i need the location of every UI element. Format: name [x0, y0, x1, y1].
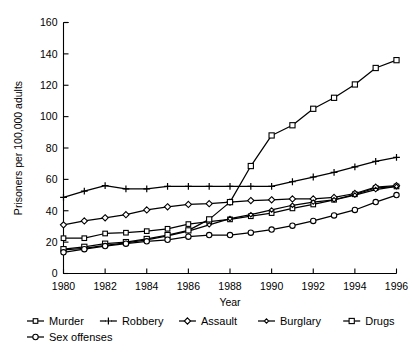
marker-circle [248, 230, 253, 235]
x-axis-label: Year [219, 296, 241, 308]
marker-plus [393, 154, 400, 161]
marker-square [311, 106, 316, 111]
marker-plus [227, 183, 234, 190]
x-tick-label-1994: 1994 [343, 280, 367, 292]
x-tick-label-1984: 1984 [135, 280, 159, 292]
legend-item-sex-offenses[interactable]: Sex offenses [27, 331, 113, 343]
marker-plus [331, 169, 338, 176]
marker-circle [269, 227, 274, 232]
legend-label: Murder [49, 315, 84, 327]
x-tick-label-1992: 1992 [302, 280, 326, 292]
y-axis-label: Prisoners per 100,000 adults [12, 81, 24, 215]
marker-square [186, 228, 191, 233]
marker-diamond [269, 197, 275, 203]
marker-plus [105, 318, 112, 325]
marker-plus [247, 183, 254, 190]
marker-circle [144, 239, 149, 244]
marker-circle [290, 223, 295, 228]
marker-circle [352, 207, 357, 212]
marker-square [269, 133, 274, 138]
marker-circle [206, 232, 211, 237]
x-tick-label-1982: 1982 [93, 280, 117, 292]
marker-small-diamond [264, 319, 268, 323]
legend-item-drugs[interactable]: Drugs [343, 315, 395, 327]
marker-diamond [289, 196, 295, 202]
legend-item-assault[interactable]: Assault [179, 315, 237, 327]
marker-plus [60, 194, 67, 201]
legend-item-burglary[interactable]: Burglary [258, 315, 321, 327]
legend-label: Burglary [280, 315, 321, 327]
marker-plus [206, 183, 213, 190]
legend-label: Sex offenses [49, 331, 113, 343]
series-line-robbery [64, 157, 397, 197]
marker-circle [331, 213, 336, 218]
x-tick-label-1980: 1980 [52, 280, 76, 292]
x-tick-label-1986: 1986 [177, 280, 201, 292]
marker-diamond [164, 204, 170, 210]
marker-square [144, 229, 149, 234]
marker-plus [143, 185, 150, 192]
marker-circle [123, 241, 128, 246]
y-tick-label-60: 60 [46, 173, 58, 185]
marker-square [33, 319, 38, 324]
y-tick-label-40: 40 [46, 205, 58, 217]
marker-plus [351, 163, 358, 170]
marker-plus [102, 182, 109, 189]
y-tick-label-80: 80 [46, 142, 58, 154]
y-tick-label-100: 100 [40, 110, 58, 122]
marker-circle [33, 334, 38, 339]
marker-diamond [248, 197, 254, 203]
marker-plus [123, 185, 130, 192]
marker-plus [310, 174, 317, 181]
marker-square [248, 163, 253, 168]
marker-diamond [184, 318, 190, 324]
legend-label: Assault [201, 315, 237, 327]
marker-square [207, 217, 212, 222]
marker-square [373, 65, 378, 70]
x-tick-label-1988: 1988 [218, 280, 242, 292]
marker-plus [372, 158, 379, 165]
marker-plus [185, 183, 192, 190]
marker-plus [289, 178, 296, 185]
marker-square [290, 123, 295, 128]
prisoners-per-100k-line-chart: 0204060801001201401601980198219841986198… [0, 0, 413, 360]
marker-diamond [81, 218, 87, 224]
marker-square [352, 82, 357, 87]
marker-square [394, 58, 399, 63]
series-drugs [61, 58, 399, 252]
marker-diamond [102, 215, 108, 221]
legend-label: Drugs [365, 315, 395, 327]
legend-item-robbery[interactable]: Robbery [100, 315, 164, 327]
y-tick-label-120: 120 [40, 79, 58, 91]
legend-item-murder[interactable]: Murder [27, 315, 84, 327]
marker-plus [81, 188, 88, 195]
marker-circle [394, 192, 399, 197]
marker-circle [311, 218, 316, 223]
marker-square [165, 226, 170, 231]
x-tick-label-1990: 1990 [260, 280, 284, 292]
line-chart-figure: 0204060801001201401601980198219841986198… [0, 0, 413, 360]
marker-plus [268, 183, 275, 190]
y-tick-label-20: 20 [46, 236, 58, 248]
y-tick-label-160: 160 [40, 16, 58, 28]
marker-plus [164, 183, 171, 190]
marker-square [331, 95, 336, 100]
marker-circle [373, 199, 378, 204]
series-robbery [60, 154, 400, 201]
marker-diamond [123, 212, 129, 218]
marker-square [124, 230, 129, 235]
marker-circle [165, 237, 170, 242]
y-tick-label-0: 0 [52, 267, 58, 279]
x-tick-label-1996: 1996 [385, 280, 409, 292]
y-tick-label-140: 140 [40, 48, 58, 60]
marker-square [186, 222, 191, 227]
marker-circle [82, 246, 87, 251]
marker-diamond [60, 222, 66, 228]
marker-circle [227, 232, 232, 237]
marker-circle [186, 234, 191, 239]
marker-circle [61, 250, 66, 255]
marker-circle [102, 243, 107, 248]
marker-square [349, 318, 354, 323]
marker-diamond [185, 201, 191, 207]
marker-diamond [144, 207, 150, 213]
